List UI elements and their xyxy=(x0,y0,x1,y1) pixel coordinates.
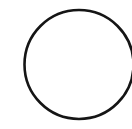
shape-layer xyxy=(0,0,132,129)
canvas-background xyxy=(0,0,132,129)
drawing-canvas: Circle xyxy=(0,0,132,129)
